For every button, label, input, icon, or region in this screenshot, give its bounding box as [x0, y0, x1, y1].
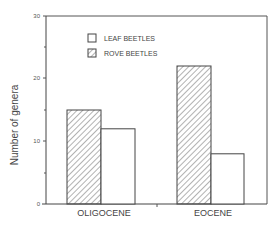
y-tick-20: 20: [33, 75, 40, 81]
y-tick-0: 0: [37, 201, 41, 207]
legend-label-rove-beetles: ROVE BEETLES: [104, 50, 158, 57]
bars-oligocene: [67, 110, 135, 204]
bars-eocene: [177, 66, 244, 204]
bar-oligocene-rove-beetles: [67, 110, 101, 204]
y-tick-labels: 30 20 10 0: [33, 13, 40, 207]
legend-swatch-open: [88, 34, 96, 42]
bar-chart: 30 20 10 0 Number of genera OLIGOCENE EO…: [0, 0, 278, 228]
bar-eocene-leaf-beetles: [211, 154, 244, 204]
y-tick-30: 30: [33, 13, 40, 19]
bar-oligocene-leaf-beetles: [101, 129, 135, 204]
legend-swatch-hatched: [88, 49, 96, 57]
category-label-eocene: EOCENE: [194, 208, 232, 218]
category-label-oligocene: OLIGOCENE: [77, 208, 131, 218]
y-tick-10: 10: [33, 138, 40, 144]
y-axis-label: Number of genera: [9, 84, 20, 165]
legend: LEAF BEETLES ROVE BEETLES: [88, 34, 158, 57]
legend-label-leaf-beetles: LEAF BEETLES: [104, 35, 155, 42]
bar-eocene-rove-beetles: [177, 66, 211, 204]
